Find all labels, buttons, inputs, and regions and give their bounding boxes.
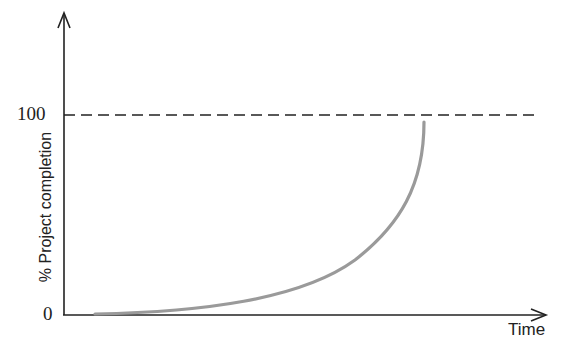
y-axis-label: % Project completion [37,132,55,282]
y-tick-0: 0 [43,303,53,325]
completion-curve [95,122,424,314]
x-axis-label: Time [508,320,545,340]
y-tick-100: 100 [17,103,46,125]
chart-canvas [0,0,565,355]
chart: 100 0 % Project completion Time [0,0,565,355]
